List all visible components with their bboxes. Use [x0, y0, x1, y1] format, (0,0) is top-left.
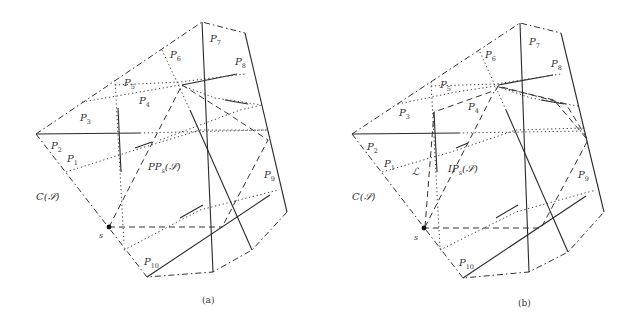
region-label-pps: PPs(𝒮): [147, 161, 181, 175]
label-p1: P1: [383, 158, 395, 172]
figure: P7 P6 P8 P5 P4 P3 P2 P1 P9 P10 PPs(𝒮) C(…: [0, 0, 631, 328]
label-p6: P6: [169, 49, 181, 63]
obstacle-p10-segment: [147, 195, 270, 277]
source-point-s: [107, 225, 112, 230]
convex-hull-boundary-lower: [352, 134, 604, 278]
label-p4: P4: [138, 95, 150, 109]
dashed-line-top: [499, 87, 586, 138]
panel-a: P7 P6 P8 P5 P4 P3 P2 P1 P9 P10 PPs(𝒮) C(…: [36, 22, 287, 305]
label-p2: P2: [366, 141, 378, 155]
label-p9: P9: [263, 169, 275, 183]
hull-label: C(𝒮): [352, 191, 376, 202]
label-p7: P7: [528, 36, 540, 50]
dashed-ray-3: [182, 85, 268, 227]
obstacle-segment-mid: [190, 110, 252, 250]
dotted-line-p2-ext: [459, 131, 586, 133]
label-p3: P3: [79, 112, 91, 126]
dotted-line-right: [160, 105, 262, 140]
label-script-l: ℒ: [412, 166, 420, 177]
source-label: s: [99, 231, 103, 240]
dotted-line-p3: [431, 82, 440, 248]
label-p3: P3: [398, 107, 410, 121]
caption-b: (b): [518, 298, 531, 308]
label-p7: P7: [209, 33, 221, 47]
obstacle-p2-segment: [352, 133, 459, 134]
region-label-ips: IPs(𝒮): [447, 163, 478, 177]
obstacle-p2-segment: [36, 133, 140, 134]
panel-b: P7 P6 P8 P5 P4 P3 P2 P1 ℒ P9 P10 IPs(𝒮) …: [352, 23, 604, 308]
label-p5: P5: [123, 77, 135, 91]
dotted-line-p3: [115, 80, 124, 244]
source-point-s: [422, 226, 427, 231]
label-p2: P2: [50, 140, 62, 154]
hull-edge-right: [245, 33, 287, 212]
label-p10: P10: [458, 257, 474, 271]
dashed-ray-inner: [425, 92, 494, 227]
dashed-region-boundary: [425, 86, 588, 228]
label-p8: P8: [234, 56, 246, 70]
label-p1: P1: [66, 153, 78, 167]
obstacle-p4-short: [225, 100, 248, 104]
source-label: s: [414, 233, 418, 242]
dotted-line-p5: [398, 86, 578, 106]
label-p9: P9: [577, 169, 589, 183]
label-p4: P4: [467, 101, 479, 115]
label-p10: P10: [143, 256, 159, 270]
label-p5: P5: [439, 79, 451, 93]
label-p8: P8: [550, 58, 562, 72]
label-p6: P6: [484, 49, 496, 63]
obstacle-p10-segment: [463, 196, 586, 278]
hull-label: C(𝒮): [36, 191, 60, 202]
obstacle-p3-vertical: [434, 112, 437, 172]
obstacle-short-1: [180, 205, 203, 218]
caption-a: (a): [202, 295, 214, 305]
hull-edge-right: [561, 33, 604, 212]
obstacle-short-2: [135, 142, 152, 148]
